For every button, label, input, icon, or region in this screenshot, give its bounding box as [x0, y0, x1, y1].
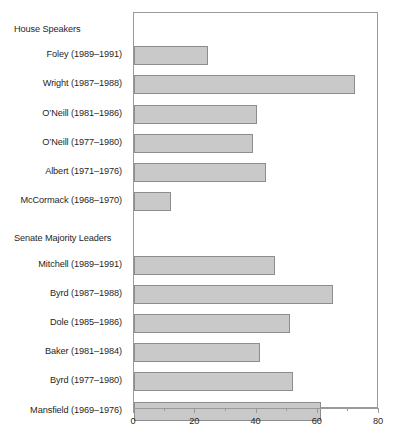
bar: [134, 163, 266, 182]
x-axis-tick: [194, 408, 195, 413]
category-label: Dole (1985–1986): [50, 317, 122, 328]
bar-chart: House SpeakersFoley (1989–1991)Wright (1…: [0, 0, 411, 443]
bar: [134, 105, 257, 124]
group-label-2: Senate Majority Leaders: [14, 233, 111, 244]
bar: [134, 46, 208, 65]
x-axis-tick-label: 60: [312, 416, 322, 427]
category-label: Byrd (1987–1988): [50, 288, 122, 299]
category-label: Foley (1989–1991): [47, 49, 122, 60]
x-axis-tick: [164, 408, 165, 411]
category-label: Baker (1981–1984): [45, 346, 122, 357]
x-axis-tick: [133, 408, 134, 413]
bar: [134, 134, 253, 153]
x-axis-tick: [317, 408, 318, 413]
x-axis-tick-label: 0: [130, 416, 135, 427]
bar: [134, 314, 290, 333]
x-axis-tick: [378, 408, 379, 413]
x-axis-tick-label: 20: [189, 416, 199, 427]
group-label-1: House Speakers: [14, 24, 81, 35]
category-label: Wright (1987–1988): [43, 78, 122, 89]
x-axis-tick: [286, 408, 287, 411]
category-label: McCormack (1968–1970): [20, 195, 122, 206]
x-axis-tick-label: 40: [250, 416, 260, 427]
category-label-column: House SpeakersFoley (1989–1991)Wright (1…: [0, 0, 128, 443]
x-axis-tick: [225, 408, 226, 411]
bar: [134, 256, 275, 275]
x-axis-tick: [256, 408, 257, 413]
plot-area: [133, 12, 378, 408]
bar: [134, 343, 260, 362]
x-axis: 020406080: [133, 408, 378, 443]
category-label: Albert (1971–1976): [45, 166, 122, 177]
x-axis-tick-label: 80: [373, 416, 383, 427]
bar: [134, 192, 171, 211]
category-label: O’Neill (1977–1980): [42, 137, 122, 148]
category-label: Mansfield (1969–1976): [30, 405, 122, 416]
bar: [134, 285, 333, 304]
x-axis-tick: [347, 408, 348, 411]
category-label: Byrd (1977–1980): [50, 375, 122, 386]
category-label: Mitchell (1989–1991): [38, 259, 122, 270]
bar: [134, 372, 293, 391]
bar: [134, 75, 355, 94]
category-label: O’Neill (1981–1986): [42, 108, 122, 119]
